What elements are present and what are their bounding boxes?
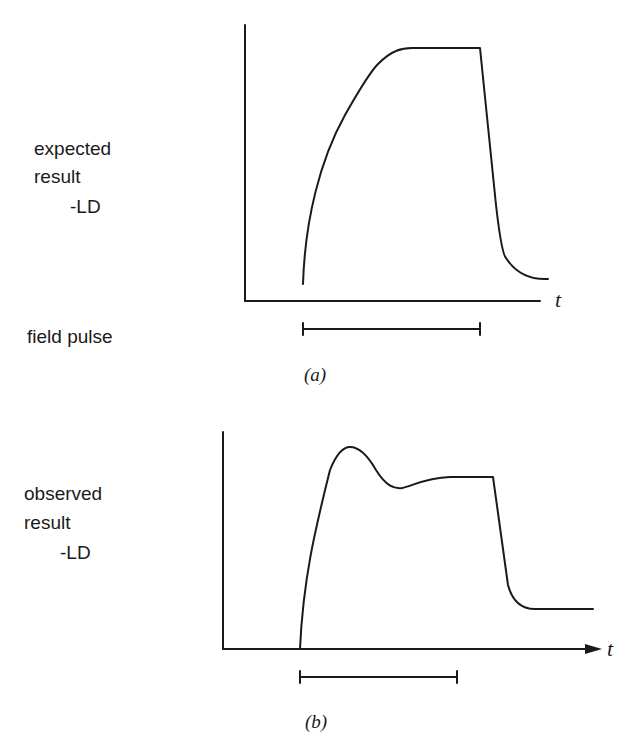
panel-b-ylabel-line2: result <box>24 512 71 533</box>
panel-b-observed-curve <box>300 447 593 649</box>
panel-a: expected result -LD t field pulse (a) <box>27 25 562 386</box>
panel-b: observed result -LD t (b) <box>24 432 614 733</box>
panel-b-ylabel-line3: -LD <box>60 542 91 563</box>
panel-a-expected-curve <box>303 48 548 284</box>
panel-a-caption: (a) <box>304 364 326 386</box>
panel-a-ylabel-line2: result <box>34 166 81 187</box>
figure: expected result -LD t field pulse (a) ob… <box>0 0 639 755</box>
panel-b-axis-label: t <box>607 636 614 661</box>
field-pulse-label: field pulse <box>27 326 113 347</box>
panel-b-axis-arrow-icon <box>585 644 602 654</box>
panel-a-axis-label: t <box>555 287 562 312</box>
panel-b-caption: (b) <box>305 711 327 733</box>
panel-a-ylabel-line3: -LD <box>70 196 101 217</box>
panel-a-ylabel-line1: expected <box>34 138 111 159</box>
panel-b-ylabel-line1: observed <box>24 483 102 504</box>
